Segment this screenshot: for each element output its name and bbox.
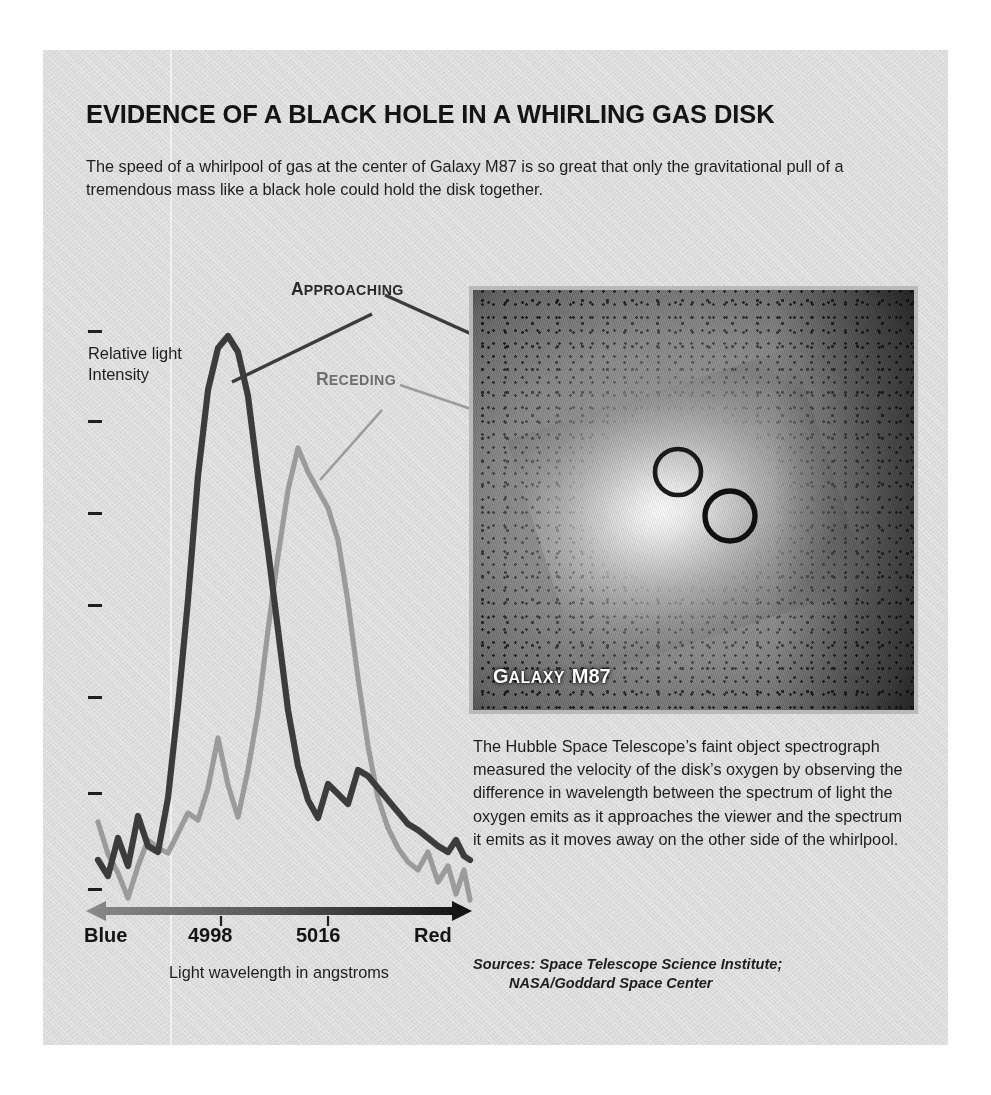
receding-leader-line: [320, 410, 382, 480]
annotation-leader-lines: [84, 300, 474, 940]
body-paragraph: The Hubble Space Telescope’s faint objec…: [473, 735, 903, 851]
label-approaching: APPROACHING: [291, 279, 404, 300]
label-approaching-rest: PPROACHING: [304, 282, 404, 298]
photo-caption: GALAXYM87: [493, 665, 611, 688]
label-receding-rest: ECEDING: [329, 372, 396, 388]
photo-caption-alaxy: ALAXY: [509, 669, 565, 686]
infographic-page: EVIDENCE OF A BLACK HOLE IN A WHIRLING G…: [0, 0, 991, 1095]
photo-markers: [473, 290, 914, 710]
photo-caption-lead: G: [493, 665, 509, 687]
x-axis-caption: Light wavelength in angstroms: [84, 963, 474, 982]
sources-line-2: NASA/Goddard Space Center: [473, 974, 903, 993]
label-receding: RECEDING: [316, 369, 396, 390]
label-receding-lead: R: [316, 369, 329, 389]
sources-line-1: Sources: Space Telescope Science Institu…: [473, 956, 782, 972]
label-approaching-lead: A: [291, 279, 304, 299]
x-tick-label-4998: 4998: [188, 924, 233, 947]
photo-caption-designation: M87: [572, 665, 611, 687]
x-label-blue: Blue: [84, 924, 127, 947]
receding-region-circle: [655, 449, 701, 495]
approaching-region-circle: [705, 491, 755, 541]
x-tick-label-5016: 5016: [296, 924, 341, 947]
sources-note: Sources: Space Telescope Science Institu…: [473, 955, 903, 994]
deck-paragraph: The speed of a whirlpool of gas at the c…: [86, 155, 876, 201]
double-headed-arrow: [86, 901, 472, 921]
galaxy-photo: GALAXYM87: [473, 290, 914, 710]
x-label-red: Red: [414, 924, 452, 947]
x-axis: Blue 4998 5016 Red: [84, 900, 474, 938]
page-title: EVIDENCE OF A BLACK HOLE IN A WHIRLING G…: [86, 101, 886, 128]
